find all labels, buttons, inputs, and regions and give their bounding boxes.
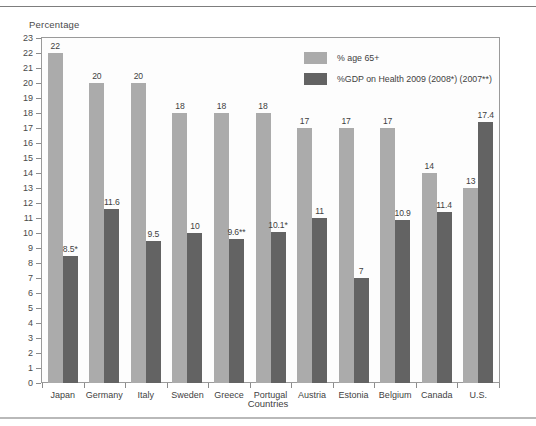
- y-axis-tick-mark: [36, 128, 41, 129]
- x-axis-tick-mark: [84, 383, 85, 388]
- bar: 17.4: [478, 122, 493, 383]
- x-axis-tick-mark: [416, 383, 417, 388]
- legend-item: % age 65+: [304, 52, 492, 64]
- legend-swatch-age65: [304, 52, 327, 64]
- y-axis-tick-mark: [36, 323, 41, 324]
- x-axis-title: Countries: [0, 398, 536, 409]
- bar-value-label: 7: [359, 266, 364, 276]
- bar: 10.9: [395, 220, 410, 384]
- y-axis-tick-label: 13: [3, 183, 33, 193]
- bar: 17: [339, 128, 354, 383]
- y-axis-tick-mark: [36, 278, 41, 279]
- bar-group: 209.5: [131, 38, 161, 383]
- y-axis-tick-label: 2: [3, 348, 33, 358]
- y-axis-tick-label: 14: [3, 168, 33, 178]
- top-divider: [0, 6, 536, 7]
- x-axis-tick-mark: [250, 383, 251, 388]
- y-axis-tick-mark: [36, 158, 41, 159]
- bar-value-label: 20: [92, 71, 101, 81]
- bar: 18: [172, 113, 187, 383]
- bar-value-label: 18: [258, 101, 267, 111]
- bar-value-label: 22: [51, 41, 60, 51]
- y-axis-tick-mark: [36, 188, 41, 189]
- bar-value-label: 18: [175, 101, 184, 111]
- y-axis-title: Percentage: [29, 19, 80, 30]
- bar-value-label: 9.5: [148, 229, 160, 239]
- y-axis-tick-label: 17: [3, 123, 33, 133]
- bar-value-label: 14: [424, 161, 433, 171]
- bar-value-label: 17.4: [478, 110, 494, 120]
- bar-value-label: 11.4: [436, 200, 452, 210]
- y-axis-tick-mark: [36, 353, 41, 354]
- y-axis-tick-label: 1: [3, 363, 33, 373]
- y-axis-tick-label: 10: [3, 228, 33, 238]
- bar: 20: [131, 83, 146, 383]
- bar-value-label: 17: [300, 116, 309, 126]
- y-axis-tick-mark: [36, 83, 41, 84]
- y-axis-tick-mark: [36, 263, 41, 264]
- bar-group: 1810: [172, 38, 202, 383]
- y-axis-tick-label: 23: [3, 33, 33, 43]
- legend-label: % age 65+: [337, 53, 379, 63]
- bar: 11: [312, 218, 327, 383]
- y-axis-tick-label: 9: [3, 243, 33, 253]
- bar: 17: [297, 128, 312, 383]
- bar: 13: [463, 188, 478, 383]
- bar-value-label: 17: [341, 116, 350, 126]
- bar: 18: [214, 113, 229, 383]
- y-axis-tick-label: 8: [3, 258, 33, 268]
- x-axis-tick-mark: [374, 383, 375, 388]
- bar: 18: [256, 113, 271, 383]
- bar-value-label: 10.1*: [268, 220, 288, 230]
- y-axis-tick-mark: [36, 368, 41, 369]
- chart-page: Percentage 01234567891011121314151617181…: [0, 0, 536, 426]
- bar-value-label: 10.9: [394, 208, 410, 218]
- bar-group: 228.5*: [48, 38, 78, 383]
- bar: 11.4: [437, 212, 452, 383]
- y-axis-tick-mark: [36, 383, 41, 384]
- y-axis-tick-label: 12: [3, 198, 33, 208]
- x-axis-tick-mark: [208, 383, 209, 388]
- y-axis-tick-label: 20: [3, 78, 33, 88]
- chart-legend: % age 65+%GDP on Health 2009 (2008*) (20…: [304, 52, 492, 94]
- y-axis-tick-label: 3: [3, 333, 33, 343]
- bar-value-label: 18: [217, 101, 226, 111]
- y-axis-tick-mark: [36, 293, 41, 294]
- y-axis-tick-mark: [36, 308, 41, 309]
- x-axis-tick-mark: [42, 383, 43, 388]
- y-axis-tick-mark: [36, 173, 41, 174]
- bar-group: 2011.6: [89, 38, 119, 383]
- y-axis-tick-mark: [36, 98, 41, 99]
- y-axis: 01234567891011121314151617181920212223: [0, 37, 41, 383]
- bar-value-label: 8.5*: [63, 244, 78, 254]
- bar: 9.5: [146, 241, 161, 384]
- y-axis-tick-label: 7: [3, 273, 33, 283]
- x-axis-tick-mark: [125, 383, 126, 388]
- bottom-divider: [0, 417, 536, 419]
- y-axis-tick-mark: [36, 338, 41, 339]
- y-axis-tick-mark: [36, 113, 41, 114]
- bar: 8.5*: [63, 256, 78, 384]
- bar-group: 1810.1*: [256, 38, 286, 383]
- bar-value-label: 17: [383, 116, 392, 126]
- bar-group: 189.6**: [214, 38, 244, 383]
- bar: 17: [380, 128, 395, 383]
- bar-value-label: 13: [466, 176, 475, 186]
- y-axis-tick-label: 22: [3, 48, 33, 58]
- x-axis-tick-mark: [457, 383, 458, 388]
- y-axis-tick-label: 4: [3, 318, 33, 328]
- y-axis-tick-label: 0: [3, 378, 33, 388]
- bar: 20: [89, 83, 104, 383]
- y-axis-tick-mark: [36, 218, 41, 219]
- bar: 14: [422, 173, 437, 383]
- bar-value-label: 9.6**: [227, 227, 245, 237]
- bar: 22: [48, 53, 63, 383]
- x-axis-tick-mark: [333, 383, 334, 388]
- bar-value-label: 11.6: [104, 197, 120, 207]
- y-axis-tick-label: 16: [3, 138, 33, 148]
- y-axis-tick-label: 18: [3, 108, 33, 118]
- x-axis-tick-mark: [167, 383, 168, 388]
- y-axis-tick-mark: [36, 38, 41, 39]
- bar: 9.6**: [229, 239, 244, 383]
- x-axis-tick-mark: [291, 383, 292, 388]
